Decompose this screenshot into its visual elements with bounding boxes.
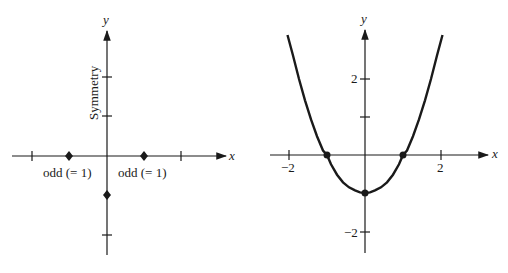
left-y-axis-label: y [101,12,109,27]
right-y-axis-label: y [359,11,367,26]
symmetry-label: Symmetry [86,65,101,120]
left-x-axis-label: x [228,148,235,163]
y-tick-label-2: 2 [351,71,358,86]
right-parabola-plot: x y −2 2 2 −2 [270,11,498,253]
parabola-curve [288,35,327,155]
figure-canvas: x y Symmetry odd (= 1) odd (= 1) x y −2 … [0,0,508,273]
root-point-neg1 [324,152,331,159]
right-marker-diamond [140,151,148,161]
left-symmetry-diagram: x y Symmetry odd (= 1) odd (= 1) [12,12,235,255]
y-tick-label-neg2: −2 [344,225,358,240]
vertex-point [362,190,369,197]
right-x-axis-label: x [491,146,498,161]
root-point-1 [400,152,407,159]
bottom-marker-diamond [103,190,111,200]
odd-label-left: odd (= 1) [43,165,92,180]
left-marker-diamond [65,151,73,161]
x-tick-label-neg2: −2 [281,160,295,175]
odd-label-right: odd (= 1) [118,165,167,180]
x-tick-label-2: 2 [437,160,444,175]
